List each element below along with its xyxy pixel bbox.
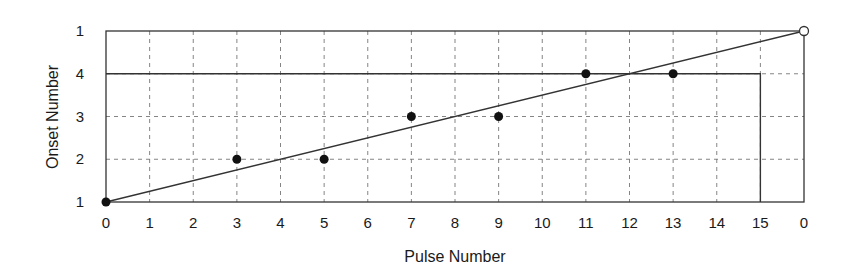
data-point-marker <box>581 69 590 78</box>
data-point-marker <box>407 112 416 121</box>
x-tick-label: 0 <box>102 214 110 231</box>
x-axis-ticks: 01234567891011121314150 <box>102 214 808 231</box>
data-point-marker <box>669 69 678 78</box>
y-axis-label: Onset Number <box>44 64 61 169</box>
y-tick-label: 2 <box>76 150 84 167</box>
x-tick-label: 1 <box>145 214 153 231</box>
step-boundary <box>106 74 760 202</box>
x-tick-label: 13 <box>665 214 682 231</box>
onset-pulse-chart: 01234567891011121314150 12341 Pulse Numb… <box>0 0 847 278</box>
x-tick-label: 4 <box>276 214 284 231</box>
x-tick-label: 7 <box>407 214 415 231</box>
x-tick-label: 9 <box>494 214 502 231</box>
y-tick-label: 1 <box>76 193 84 210</box>
x-tick-label: 12 <box>621 214 638 231</box>
x-tick-label: 8 <box>451 214 459 231</box>
y-axis-ticks: 12341 <box>76 22 84 210</box>
data-point-marker <box>232 155 241 164</box>
x-tick-label: 11 <box>578 214 594 231</box>
x-tick-label: 15 <box>752 214 769 231</box>
x-axis-label: Pulse Number <box>404 248 506 265</box>
x-tick-label: 6 <box>364 214 372 231</box>
data-point-marker <box>102 198 111 207</box>
x-tick-label: 5 <box>320 214 328 231</box>
x-tick-label: 3 <box>233 214 241 231</box>
x-tick-label: 0 <box>800 214 808 231</box>
open-point-marker <box>800 27 809 36</box>
y-tick-label: 4 <box>76 65 84 82</box>
x-tick-label: 10 <box>534 214 551 231</box>
data-point-marker <box>320 155 329 164</box>
x-tick-label: 2 <box>189 214 197 231</box>
x-tick-label: 14 <box>708 214 725 231</box>
y-tick-label: 3 <box>76 108 84 125</box>
y-tick-label: 1 <box>76 22 84 39</box>
data-point-marker <box>494 112 503 121</box>
